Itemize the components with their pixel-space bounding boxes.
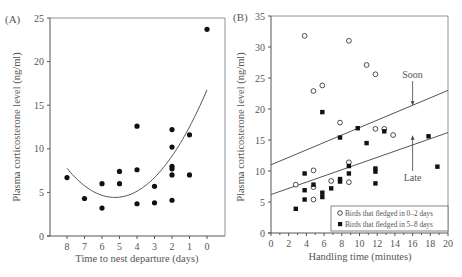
data-point [152, 184, 157, 189]
y-tick-label: 20 [255, 104, 265, 115]
data-point [117, 181, 122, 186]
data-point [152, 200, 157, 205]
x-tick-label: 8 [65, 241, 70, 252]
data-point-filled-square [320, 191, 324, 195]
data-point-filled-square [311, 182, 315, 186]
data-point-filled-square [302, 188, 306, 192]
y-tick-label: 25 [255, 73, 265, 84]
data-point-filled-square [338, 179, 342, 183]
chart-panel-a: (A) Plasma corticosterone level (ng/ml) … [5, 13, 225, 266]
annotation-late: Late [404, 172, 422, 183]
x-tick-label: 14 [390, 238, 400, 249]
y-tick-label: 35 [255, 11, 265, 22]
data-point-filled-square [329, 186, 333, 190]
panel-a-y-axis-label: Plasma corticosterone level (ng/ml) [11, 52, 23, 202]
data-point-filled-square [382, 129, 386, 133]
panel-b-legend: Birds that fledged in 0–2 days Birds tha… [331, 206, 448, 231]
data-point-open-circle [311, 197, 316, 202]
data-point [169, 198, 174, 203]
x-tick-label: 10 [355, 238, 365, 249]
data-point [187, 132, 192, 137]
data-point-open-circle [391, 133, 396, 138]
data-point-open-circle [364, 63, 369, 68]
panel-b-x-axis-label: Handling time (minutes) [308, 251, 412, 263]
data-point-filled-square [302, 197, 306, 201]
y-tick-label: 0 [39, 231, 44, 242]
data-point [169, 144, 174, 149]
y-tick-label: 10 [255, 166, 265, 177]
data-point-filled-square [426, 134, 430, 138]
data-point [134, 124, 139, 129]
arrowhead-icon [411, 136, 415, 140]
data-point [169, 172, 174, 177]
data-point-open-circle [320, 83, 325, 88]
x-tick-label: 18 [425, 238, 435, 249]
x-tick-label: 1 [187, 241, 192, 252]
panel-a-axes: 0510152025876543210 [34, 13, 225, 253]
panel-a-label: (A) [5, 13, 21, 26]
data-point [169, 166, 174, 171]
data-point [134, 201, 139, 206]
x-tick-label: 3 [152, 241, 157, 252]
y-tick-label: 5 [260, 197, 265, 208]
data-point-open-circle [293, 182, 298, 187]
data-point-filled-square [435, 164, 439, 168]
panel-b-frame [271, 16, 448, 233]
data-point-open-circle [338, 120, 343, 125]
x-tick-label: 4 [135, 241, 140, 252]
data-point-open-circle [346, 180, 351, 185]
data-point [82, 196, 87, 201]
x-tick-label: 5 [117, 241, 122, 252]
panel-a-quadratic-fit [67, 90, 207, 197]
x-tick-label: 2 [170, 241, 175, 252]
x-tick-label: 20 [443, 238, 453, 249]
data-point [187, 172, 192, 177]
x-tick-label: 8 [339, 238, 344, 249]
x-tick-label: 6 [100, 241, 105, 252]
data-point-filled-square [347, 171, 351, 175]
data-point [169, 127, 174, 132]
y-tick-label: 15 [255, 135, 265, 146]
data-point [64, 175, 69, 180]
x-tick-label: 16 [408, 238, 418, 249]
x-tick-label: 4 [304, 238, 309, 249]
data-point [134, 167, 139, 172]
data-point-filled-square [302, 171, 306, 175]
data-point [99, 205, 104, 210]
x-tick-label: 0 [205, 241, 210, 252]
y-tick-label: 30 [255, 42, 265, 53]
figure-svg: (A) Plasma corticosterone level (ng/ml) … [0, 0, 462, 277]
x-tick-label: 12 [372, 238, 382, 249]
data-point-filled-square [294, 207, 298, 211]
panel-b-y-axis-label: Plasma corticosterone level (ng/ml) [235, 52, 247, 202]
data-point [204, 27, 209, 32]
legend-entry-5-8-days: Birds that fledged in 5–8 days [345, 220, 433, 229]
data-point [99, 181, 104, 186]
data-point-filled-square [347, 164, 351, 168]
data-point-filled-square [373, 181, 377, 185]
panel-b-points [293, 33, 439, 211]
x-tick-label: 2 [286, 238, 291, 249]
y-tick-label: 10 [34, 143, 44, 154]
panel-a-x-axis-label: Time to nest departure (days) [75, 253, 199, 265]
data-point-open-circle [329, 179, 334, 184]
data-point-open-circle [311, 168, 316, 173]
data-point-filled-square [320, 195, 324, 199]
data-point-filled-square [364, 141, 368, 145]
open-circle-icon [338, 211, 343, 216]
chart-panel-b: (B) Plasma corticosterone level (ng/ml) … [233, 11, 453, 264]
data-point [117, 169, 122, 174]
data-point-filled-square [320, 110, 324, 114]
y-tick-label: 25 [34, 13, 44, 24]
data-point-open-circle [373, 126, 378, 131]
data-point-filled-square [373, 169, 377, 173]
x-tick-label: 0 [269, 238, 274, 249]
filled-square-icon [338, 222, 342, 226]
panel-b-label: (B) [233, 11, 248, 24]
data-point-open-circle [373, 72, 378, 77]
data-point-open-circle [346, 38, 351, 43]
data-point-open-circle [302, 33, 307, 38]
figure: (A) Plasma corticosterone level (ng/ml) … [0, 0, 462, 277]
quadratic-fit-curve [67, 90, 207, 197]
y-tick-label: 0 [260, 228, 265, 239]
